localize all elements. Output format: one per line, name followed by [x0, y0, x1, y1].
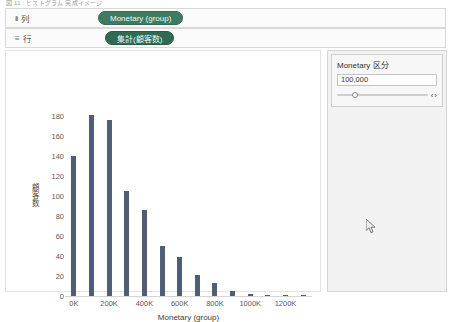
- histogram-chart: 顧客数 020406080100120140160180 0K200K400K6…: [6, 51, 322, 293]
- y-tick-label: 160: [34, 133, 64, 140]
- x-axis-ticks: 0K200K400K600K800K1000K1200K: [65, 299, 312, 311]
- rows-shelf-text: 行: [23, 32, 32, 44]
- bar[interactable]: [124, 191, 129, 296]
- y-tick-label: 180: [34, 113, 64, 120]
- y-tick-label: 40: [34, 253, 64, 260]
- bar[interactable]: [177, 257, 182, 296]
- columns-shelf-label: iii 列: [6, 12, 86, 24]
- bar[interactable]: [160, 246, 165, 296]
- x-tick-label: 800K: [206, 299, 224, 308]
- x-tick-label: 1000K: [239, 299, 261, 308]
- x-tick-label: 600K: [171, 299, 189, 308]
- y-axis-ticks: 020406080100120140160180: [34, 51, 64, 293]
- y-tick-label: 60: [34, 233, 64, 240]
- parameter-slider-track[interactable]: [337, 90, 428, 100]
- parameter-title: Monetary 区分: [337, 59, 437, 70]
- bar[interactable]: [107, 120, 112, 296]
- x-tick-label: 1200K: [275, 299, 297, 308]
- x-tick-label: 400K: [136, 299, 154, 308]
- rows-shelf[interactable]: ≡ 行 集計(顧客数): [5, 28, 446, 48]
- figure-caption: 図 11 : ヒストグラム 完成イメージ: [6, 0, 146, 7]
- x-tick-label: 0K: [69, 299, 78, 308]
- viz-pane[interactable]: 顧客数 020406080100120140160180 0K200K400K6…: [5, 50, 321, 292]
- rows-shelf-label: ≡ 行: [6, 32, 86, 44]
- x-tick-label: 200K: [100, 299, 118, 308]
- slider-arrow-left-icon[interactable]: ‹: [431, 91, 434, 100]
- y-tick-label: 80: [34, 213, 64, 220]
- bar[interactable]: [195, 275, 200, 296]
- y-tick-label: 120: [34, 173, 64, 180]
- bar[interactable]: [71, 156, 76, 296]
- rows-shelf-icon: ≡: [15, 34, 19, 43]
- columns-shelf-icon: iii: [15, 14, 17, 23]
- pill-monetary-group[interactable]: Monetary (group): [98, 11, 183, 25]
- y-tick-label: 0: [34, 293, 64, 300]
- columns-shelf-text: 列: [21, 12, 30, 24]
- parameter-card-monetary-bin[interactable]: Monetary 区分 100,000 ‹ ›: [331, 54, 443, 107]
- slider-arrow-right-icon[interactable]: ›: [434, 91, 437, 100]
- parameter-value-input[interactable]: 100,000: [337, 74, 437, 86]
- bar[interactable]: [212, 283, 217, 296]
- bar[interactable]: [142, 210, 147, 296]
- mouse-cursor-icon: [366, 219, 377, 234]
- parameter-slider-thumb[interactable]: [352, 92, 358, 98]
- bar[interactable]: [89, 115, 94, 296]
- x-axis-line: [65, 296, 312, 297]
- columns-shelf[interactable]: iii 列 Monetary (group): [5, 8, 446, 28]
- y-tick-label: 20: [34, 273, 64, 280]
- y-tick-label: 140: [34, 153, 64, 160]
- parameter-slider-arrows[interactable]: ‹ ›: [431, 91, 437, 100]
- y-tick-label: 100: [34, 193, 64, 200]
- pill-count-customers[interactable]: 集計(顧客数): [105, 31, 174, 45]
- plot-area: [65, 106, 312, 296]
- parameter-panel[interactable]: Monetary 区分 100,000 ‹ ›: [327, 50, 447, 292]
- parameter-slider-row[interactable]: ‹ ›: [337, 90, 437, 100]
- x-axis-title: Monetary (group): [65, 313, 312, 322]
